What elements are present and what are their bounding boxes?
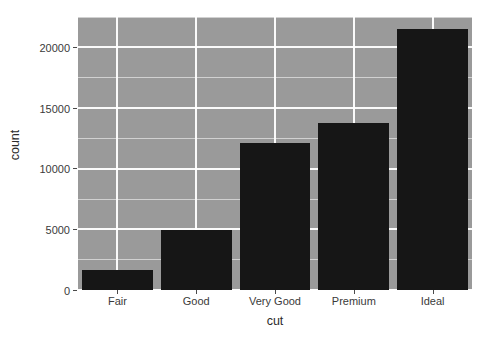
- y-tick-mark: [73, 290, 77, 291]
- y-tick-mark: [73, 229, 77, 230]
- y-axis-ticks: 05000100001500020000: [0, 0, 78, 338]
- y-tick-label: 10000: [39, 164, 70, 175]
- bar-good: [161, 230, 232, 290]
- y-axis-title: count: [4, 0, 26, 290]
- bar-premium: [318, 123, 389, 290]
- gridline-major-vertical: [116, 17, 118, 290]
- y-tick-mark: [73, 168, 77, 169]
- y-axis-title-text: count: [8, 130, 22, 161]
- x-tick-mark: [275, 290, 276, 294]
- x-tick-mark: [354, 290, 355, 294]
- x-axis-title: cut: [78, 314, 472, 328]
- x-axis-tick-labels: FairGoodVery GoodPremiumIdeal: [78, 296, 472, 312]
- x-tick-label-very-good: Very Good: [249, 296, 301, 307]
- x-tick-mark: [196, 290, 197, 294]
- x-tick-mark: [433, 290, 434, 294]
- x-tick-label-ideal: Ideal: [421, 296, 445, 307]
- bar-fair: [82, 270, 153, 290]
- y-tick-label: 20000: [39, 42, 70, 53]
- bar-ideal: [397, 29, 468, 290]
- chart-panel: [78, 17, 472, 290]
- x-tick-label-good: Good: [183, 296, 210, 307]
- y-tick-mark: [73, 47, 77, 48]
- y-tick-label: 0: [64, 285, 70, 296]
- y-tick-label: 15000: [39, 103, 70, 114]
- x-tick-mark: [117, 290, 118, 294]
- chart-plot-area: count 05000100001500020000 FairGoodVery …: [0, 0, 491, 338]
- x-axis-title-text: cut: [267, 314, 284, 328]
- x-tick-label-premium: Premium: [332, 296, 376, 307]
- bar-very-good: [240, 143, 311, 290]
- x-tick-label-fair: Fair: [108, 296, 127, 307]
- y-tick-label: 5000: [46, 224, 70, 235]
- y-tick-mark: [73, 108, 77, 109]
